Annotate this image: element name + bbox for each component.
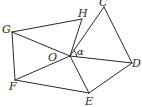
segment-OE [70,56,89,93]
label-E: E [84,95,93,107]
segment-ED [89,63,132,93]
label-F: F [8,80,17,93]
segment-DC [104,7,132,63]
label-C: C [99,0,108,9]
segment-FE [15,80,89,93]
label-H: H [77,7,88,20]
segment-GF [12,32,15,80]
label-G: G [2,23,11,36]
geometry-figure: C H G O α D F E [0,0,142,107]
segment-OD [70,56,132,63]
label-D: D [131,57,141,70]
segment-GO [12,32,70,56]
segments [12,7,132,93]
segment-FO [15,56,70,80]
label-alpha: α [77,46,84,57]
label-O: O [48,51,57,64]
segment-GH [12,19,82,32]
